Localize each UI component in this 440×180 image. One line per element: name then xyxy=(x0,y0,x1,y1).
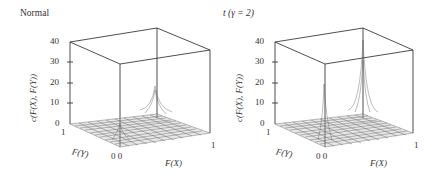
z-tick-30: 30 xyxy=(255,56,264,66)
z-tick-10: 10 xyxy=(255,97,264,107)
z-tick-0: 0 xyxy=(260,118,265,128)
z-axis-label: c(F(X), F(Y)) xyxy=(234,74,244,122)
z-tick-40: 40 xyxy=(255,36,264,46)
z-tick-20: 20 xyxy=(255,77,264,87)
z-tick-20: 20 xyxy=(50,77,59,87)
z-tick-10: 10 xyxy=(50,97,59,107)
z-tick-30: 30 xyxy=(50,56,59,66)
y-tick-1: 1 xyxy=(266,127,271,137)
y-tick-1: 1 xyxy=(61,127,66,137)
panel-normal: Normal 40 30 20 10 0 c(F xyxy=(0,0,220,180)
panel-t: t (γ = 2) 40 30 20 10 0 c(F(X), F(Y)) 1 xyxy=(220,0,440,180)
x-axis-label: F(X) xyxy=(370,158,387,168)
z-tick-40: 40 xyxy=(50,36,59,46)
x-tick-1: 1 xyxy=(414,140,419,150)
z-axis-label: c(F(X), F(Y)) xyxy=(28,74,38,122)
z-tick-0: 0 xyxy=(55,118,60,128)
x-axis-label: F(X) xyxy=(165,158,182,168)
origin-ticks: 0 0 xyxy=(316,151,327,161)
x-tick-1: 1 xyxy=(211,140,216,150)
surface-plot xyxy=(220,0,440,180)
origin-ticks: 0 0 xyxy=(111,151,122,161)
